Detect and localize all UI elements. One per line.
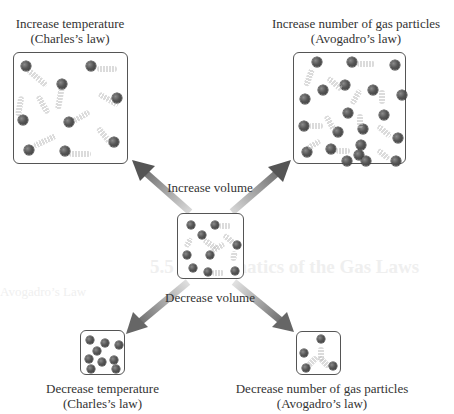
box-increase-gas-particles <box>293 52 406 164</box>
gas-particle <box>379 110 389 120</box>
gas-particle <box>189 264 197 272</box>
label-increase-gas-particles: Increase number of gas particles (Avogad… <box>258 16 454 46</box>
gas-particle <box>397 90 407 100</box>
gas-particle <box>342 156 352 166</box>
box-center-volume <box>177 213 244 279</box>
gas-particle <box>391 156 401 166</box>
gas-particle <box>64 117 74 127</box>
gas-particle <box>356 140 366 150</box>
gas-particle <box>211 221 219 229</box>
subtitle: (Charles’s law) <box>0 31 140 46</box>
title: Increase temperature <box>0 16 140 31</box>
gas-particle <box>300 349 308 357</box>
gas-particle <box>299 121 309 131</box>
gas-particle <box>312 57 322 67</box>
subtitle: (Charles’s law) <box>30 396 175 411</box>
gas-particle <box>343 108 353 118</box>
gas-particle <box>393 133 403 143</box>
gas-particle <box>18 115 28 125</box>
gas-particle <box>101 339 109 347</box>
gas-particle <box>110 356 118 364</box>
gas-particle <box>204 268 212 276</box>
gas-particle <box>60 146 70 156</box>
subtitle: (Avogadro’s law) <box>258 31 454 46</box>
gas-particle <box>231 267 239 275</box>
gas-particle <box>109 137 119 147</box>
gas-particle <box>347 57 357 67</box>
gas-particle <box>21 61 31 71</box>
title: Decrease number of gas particles <box>232 381 412 396</box>
gas-particle <box>390 60 400 70</box>
gas-particle <box>87 365 95 373</box>
gas-particle <box>93 347 101 355</box>
title: Decrease temperature <box>30 381 175 396</box>
gas-particle <box>326 144 336 154</box>
gas-particle <box>85 355 93 363</box>
gas-particle <box>361 156 371 166</box>
gas-particle <box>112 93 122 103</box>
gas-particle <box>115 341 123 349</box>
gas-particle <box>233 241 241 249</box>
gas-particle <box>86 336 94 344</box>
label-increase-temperature: Increase temperature (Charles’s law) <box>0 16 140 46</box>
gas-particle <box>317 335 325 343</box>
box-increase-temperature <box>13 52 128 164</box>
box-decrease-temperature <box>80 330 125 375</box>
box-decrease-gas-particles <box>296 331 341 375</box>
gas-particle <box>329 362 337 370</box>
label-decrease-volume: Decrease volume <box>155 290 265 305</box>
subtitle: (Avogadro’s law) <box>232 396 412 411</box>
gas-particle <box>86 61 96 71</box>
gas-particle <box>183 251 191 259</box>
gas-particle <box>318 85 328 95</box>
title: Increase number of gas particles <box>258 16 454 31</box>
label-decrease-temperature: Decrease temperature (Charles’s law) <box>30 381 175 411</box>
gas-particle <box>24 145 34 155</box>
gas-particle <box>368 85 378 95</box>
gas-particle <box>112 365 120 373</box>
gas-particle <box>57 79 67 89</box>
gas-particle <box>302 364 310 372</box>
gas-particle <box>300 94 310 104</box>
label-increase-volume: Increase volume <box>160 180 260 195</box>
label-decrease-gas-particles: Decrease number of gas particles (Avogad… <box>232 381 412 411</box>
gas-particle <box>187 221 195 229</box>
gas-particle <box>98 358 106 366</box>
